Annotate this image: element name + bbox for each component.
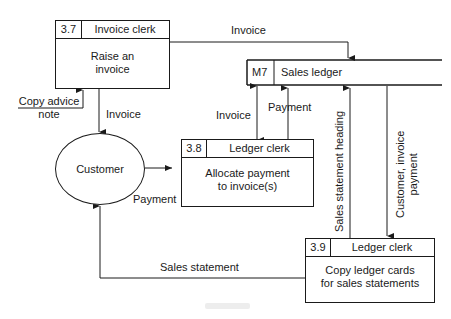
process-description-line: invoice <box>56 63 169 76</box>
label-line: payment <box>407 131 420 218</box>
process-number: 3.9 <box>306 239 331 256</box>
process-description-line: Copy ledger cards <box>306 264 434 277</box>
process-role: Ledger clerk <box>206 140 313 157</box>
process-header: 3.9 Ledger clerk <box>306 239 434 257</box>
label-payment-38-to-ledger: Payment <box>268 101 311 114</box>
figure-caption-faded <box>205 303 250 309</box>
process-description-line: to invoice(s) <box>182 180 313 193</box>
process-description: Allocate payment to invoice(s) <box>182 167 313 193</box>
data-store-name[interactable]: Sales ledger <box>281 66 342 79</box>
label-invoice-to-customer: Invoice <box>106 108 141 121</box>
label-payment-customer-to-38: Payment <box>133 193 176 206</box>
process-description: Raise an invoice <box>56 50 169 76</box>
label-line: Copy advice <box>18 95 80 108</box>
label-sales-statement-heading: Sales statement heading <box>333 111 346 232</box>
process-description: Copy ledger cards for sales statements <box>306 264 434 290</box>
process-description-line: Raise an <box>56 50 169 63</box>
process-description-line: for sales statements <box>306 277 434 290</box>
data-store-id: M7 <box>252 66 267 79</box>
label-line: note <box>18 108 80 121</box>
entity-label: Customer <box>76 163 124 175</box>
process-role: Ledger clerk <box>330 239 434 256</box>
process-role: Invoice clerk <box>81 21 169 38</box>
flow-invoice-to-ledger <box>170 42 348 58</box>
process-3-8[interactable]: 3.8 Ledger clerk Allocate payment to inv… <box>181 139 314 207</box>
label-sales-statement: Sales statement <box>160 261 239 274</box>
external-entity-customer[interactable]: Customer <box>55 133 145 205</box>
label-copy-advice-note: Copy advice note <box>18 95 80 121</box>
process-number: 3.8 <box>182 140 207 157</box>
process-number: 3.7 <box>56 21 82 38</box>
process-3-7[interactable]: 3.7 Invoice clerk Raise an invoice <box>55 20 170 89</box>
process-header: 3.7 Invoice clerk <box>56 21 169 39</box>
label-invoice-to-ledger: Invoice <box>231 24 266 37</box>
process-3-9[interactable]: 3.9 Ledger clerk Copy ledger cards for s… <box>305 238 435 303</box>
process-header: 3.8 Ledger clerk <box>182 140 313 158</box>
label-line: Customer, invoice <box>394 131 407 218</box>
process-description-line: Allocate payment <box>182 167 313 180</box>
label-invoice-ledger-38: Invoice <box>216 109 251 122</box>
label-customer-invoice-payment: Customer, invoice payment <box>394 131 420 218</box>
